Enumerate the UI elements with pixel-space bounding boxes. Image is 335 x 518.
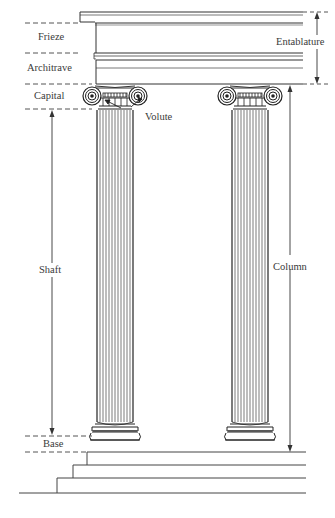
- label-volute: Volute: [145, 112, 172, 123]
- left-column-drawing: [83, 86, 147, 109]
- right-column-drawing: [218, 86, 282, 109]
- label-architrave: Architrave: [27, 63, 72, 74]
- label-entablature: Entablature: [276, 37, 324, 48]
- entablature-drawing: [80, 12, 303, 84]
- label-column: Column: [273, 262, 307, 273]
- label-capital: Capital: [34, 91, 64, 102]
- label-base: Base: [43, 439, 63, 450]
- label-frieze: Frieze: [38, 32, 64, 43]
- ionic-order-diagram: Frieze Architrave Capital Volute Shaft B…: [0, 0, 335, 518]
- label-shaft: Shaft: [39, 265, 61, 276]
- left-dashed-guides: [25, 23, 92, 452]
- stylobate-steps-drawing: [19, 452, 306, 493]
